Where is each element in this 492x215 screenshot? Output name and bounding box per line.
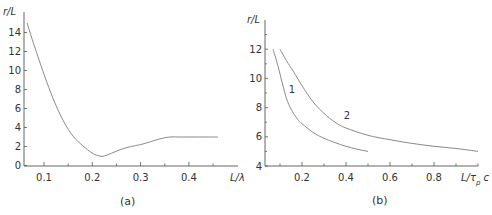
y-tick-label: 6 [15, 103, 21, 114]
chart-b-ylabel: r/L [247, 14, 260, 25]
y-tick-label: 4 [15, 122, 21, 133]
chart-a-plot-area [27, 23, 218, 156]
chart-b-plot-area [273, 49, 478, 151]
chart-a-caption: (a) [120, 195, 135, 208]
y-tick-label: 12 [8, 46, 21, 57]
chart-b-xlabel-main: L/τ [461, 172, 477, 183]
y-tick-label: 2 [15, 141, 21, 152]
curve-label-2: 2 [344, 110, 350, 121]
y-tick-label: 14 [8, 27, 21, 38]
y-tick-label: 8 [256, 102, 262, 113]
chart-b: 0.20.40.60.84681012 r/L L/τp c 12 (b) [247, 14, 490, 207]
chart-b-xlabel-tail: c [480, 172, 489, 183]
x-tick-label: 0.2 [84, 172, 100, 183]
x-tick-label: 0.4 [181, 172, 197, 183]
chart-a-series-1 [27, 23, 218, 156]
y-tick-label: 12 [249, 44, 262, 55]
chart-a-ylabel: r/L [3, 6, 16, 17]
figure: 0.10.20.30.402468101214 r/L L/λ (a) 0.20… [0, 0, 492, 215]
chart-b-ticks: 0.20.40.60.84681012 [249, 35, 478, 183]
y-tick-label: 0 [15, 160, 21, 171]
x-tick-label: 0.2 [294, 172, 310, 183]
y-tick-label: 4 [256, 161, 262, 172]
y-tick-label: 8 [15, 84, 21, 95]
x-tick-label: 0.4 [338, 172, 354, 183]
chart-a-ticks: 0.10.20.30.402468101214 [8, 27, 213, 183]
chart-b-annotations: 12 [289, 84, 350, 121]
y-tick-label: 10 [249, 73, 262, 84]
x-tick-label: 0.6 [382, 172, 398, 183]
curve-label-1: 1 [289, 84, 295, 95]
x-tick-label: 0.3 [133, 172, 149, 183]
y-tick-label: 10 [8, 65, 21, 76]
chart-b-series-1 [273, 49, 368, 151]
chart-a-xlabel: L/λ [230, 172, 245, 183]
chart-b-series-2 [280, 49, 478, 151]
chart-b-caption: (b) [372, 194, 388, 207]
x-tick-label: 0.8 [426, 172, 442, 183]
chart-b-xlabel: L/τp c [461, 172, 490, 187]
x-tick-label: 0.1 [36, 172, 52, 183]
chart-a: 0.10.20.30.402468101214 r/L L/λ (a) [3, 6, 245, 208]
y-tick-label: 6 [256, 131, 262, 142]
